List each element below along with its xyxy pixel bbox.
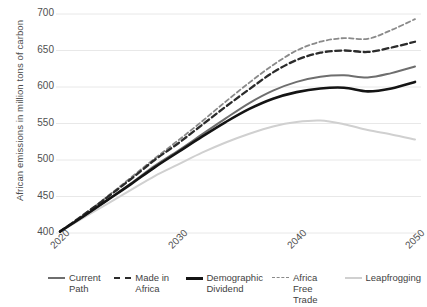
legend-item[interactable]: Africa Free Trade: [272, 272, 336, 305]
x-tick-label: 2040: [285, 227, 309, 251]
legend-label: Demographic Dividend: [207, 272, 264, 294]
x-tick-label: 2020: [48, 227, 72, 251]
legend-line-swatch-icon: [186, 272, 203, 286]
legend-label: Made in Africa: [135, 272, 176, 294]
legend-line-swatch-icon: [48, 272, 65, 286]
legend-line-swatch-icon: [272, 272, 289, 286]
legend-item[interactable]: Demographic Dividend: [186, 272, 264, 294]
legend-label: Current Path: [69, 272, 105, 294]
legend-line-swatch-icon: [114, 272, 131, 286]
x-tick-label: 2050: [403, 227, 427, 251]
legend-line-swatch-icon: [345, 272, 362, 286]
legend-label: Leapfrogging: [366, 272, 421, 283]
chart-legend: Current PathMade in AfricaDemographic Di…: [48, 272, 421, 305]
legend-label: Africa Free Trade: [293, 272, 336, 305]
x-tick-label: 2030: [166, 227, 190, 251]
legend-item[interactable]: Current Path: [48, 272, 105, 294]
legend-item[interactable]: Leapfrogging: [345, 272, 421, 286]
legend-item[interactable]: Made in Africa: [114, 272, 176, 294]
